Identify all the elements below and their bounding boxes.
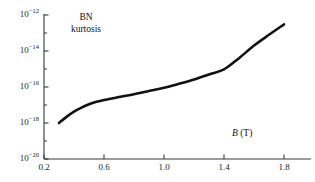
x-axis-title-unit: (T) bbox=[240, 128, 252, 138]
x-axis-tick-label-1: 0.6 bbox=[89, 162, 119, 172]
annotation-line-2: kurtosis bbox=[55, 23, 117, 35]
plot-canvas bbox=[0, 0, 315, 182]
x-axis-title: B (T) bbox=[232, 128, 252, 138]
axes-group bbox=[44, 14, 311, 159]
data-series-line-0 bbox=[59, 24, 284, 123]
x-axis-tick-label-2: 1.0 bbox=[149, 162, 179, 172]
y-axis-tick-label-0: 10−12 bbox=[2, 9, 39, 19]
x-axis-tick-label-4: 1.8 bbox=[269, 162, 299, 172]
y-axis-tick-label-1: 10−14 bbox=[2, 45, 39, 55]
y-axis-tick-label-3: 10−18 bbox=[2, 117, 39, 127]
series-annotation-label: BN kurtosis bbox=[55, 11, 117, 35]
chart-figure: 10−1210−1410−1610−1810−20 0.20.61.01.41.… bbox=[0, 0, 315, 182]
y-axis-tick-label-2: 10−16 bbox=[2, 81, 39, 91]
x-axis-tick-label-0: 0.2 bbox=[29, 162, 59, 172]
x-axis-tick-label-3: 1.4 bbox=[209, 162, 239, 172]
annotation-line-1: BN bbox=[55, 11, 117, 23]
data-series-group bbox=[59, 24, 284, 123]
